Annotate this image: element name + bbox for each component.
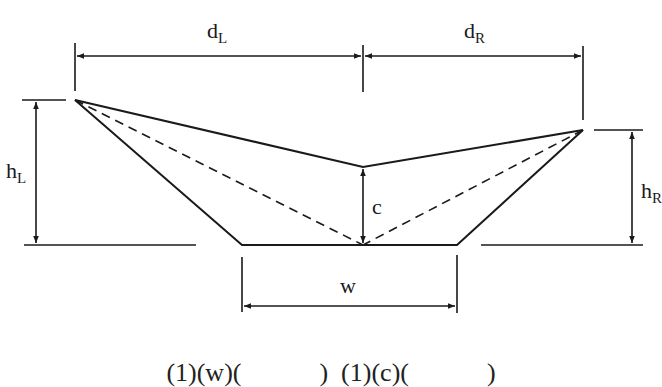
hL-label-base: h bbox=[6, 158, 17, 183]
c-label: c bbox=[372, 196, 382, 218]
dL-label-sub: L bbox=[218, 30, 227, 46]
dR-label: dR bbox=[464, 20, 485, 46]
dashed-right-line bbox=[363, 130, 583, 245]
hR-label-sub: R bbox=[652, 190, 662, 206]
dL-label-base: d bbox=[207, 18, 218, 43]
hL-label: hL bbox=[6, 160, 26, 186]
dL-label: dL bbox=[207, 20, 227, 46]
hR-label-base: h bbox=[641, 178, 652, 203]
dR-label-base: d bbox=[464, 18, 475, 43]
channel-outline bbox=[75, 100, 583, 245]
hL-label-sub: L bbox=[17, 170, 26, 186]
dashed-left-line bbox=[75, 100, 363, 245]
dR-label-sub: R bbox=[475, 30, 485, 46]
w-label: w bbox=[340, 275, 356, 297]
top-surface-line bbox=[75, 100, 583, 167]
hR-label: hR bbox=[641, 180, 662, 206]
area-formula-partial: (1)(w)( ) (1)(c)( ) bbox=[0, 360, 662, 386]
